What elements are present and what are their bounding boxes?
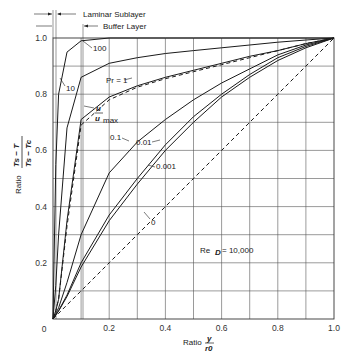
svg-text:u: u — [96, 104, 101, 113]
label-pr01: 0.1 — [110, 133, 122, 142]
svg-text:y: y — [206, 334, 212, 343]
label-pr1: Pr = 1 — [106, 76, 128, 85]
svg-text:Ratio: Ratio — [14, 175, 23, 194]
y-tick-label: 0.6 — [35, 145, 47, 155]
y-axis-label: Ratio Ts − T Ts − Tc — [12, 136, 33, 194]
buffer-layer-annotation: Buffer Layer — [36, 22, 147, 31]
curve-labels: 100 10 Pr = 1 u u max 0.1 0.01 0.001 0 — [60, 41, 177, 227]
svg-text:D: D — [215, 248, 221, 257]
reynolds-number-label: Re D = 10,000 — [200, 246, 254, 257]
svg-text:r0: r0 — [205, 344, 213, 353]
x-tick-label: 0.8 — [272, 323, 284, 333]
label-pr0001: 0.001 — [156, 162, 177, 171]
laminar-sublayer-annotation: Laminar Sublayer — [34, 10, 146, 19]
y-tick-label: 0.8 — [35, 89, 47, 99]
label-u-umax: u u max — [84, 104, 118, 125]
label-pr001: 0.01 — [136, 138, 152, 147]
x-axis-label: Ratio y r0 — [183, 334, 214, 353]
x-axis-ticks: 00.20.40.60.81.0 — [42, 323, 341, 334]
svg-text:Ratio: Ratio — [183, 338, 202, 347]
x-tick-label: 0.6 — [216, 323, 228, 333]
buffer-layer-label: Buffer Layer — [103, 22, 147, 31]
temperature-profile-chart: Laminar Sublayer Buffer Layer 100 10 Pr … — [0, 0, 349, 356]
svg-text:max: max — [103, 116, 118, 125]
svg-text:Ts − Tc: Ts − Tc — [24, 139, 33, 167]
y-tick-label: 0.4 — [35, 202, 47, 212]
y-axis-ticks: 0.20.40.60.81.0 — [35, 33, 47, 268]
svg-text:Re: Re — [200, 246, 211, 255]
label-pr10: 10 — [66, 84, 75, 93]
svg-text:= 10,000: = 10,000 — [222, 246, 254, 255]
svg-text:u: u — [95, 114, 100, 123]
x-tick-label: 0 — [42, 324, 47, 334]
x-tick-label: 0.4 — [159, 323, 171, 333]
svg-text:Ts − T: Ts − T — [12, 143, 21, 167]
x-tick-label: 1.0 — [328, 323, 340, 333]
y-tick-label: 0.2 — [35, 258, 47, 268]
label-pr0: 0 — [151, 218, 156, 227]
y-tick-label: 1.0 — [35, 33, 47, 43]
x-tick-label: 0.2 — [103, 323, 115, 333]
laminar-sublayer-label: Laminar Sublayer — [83, 10, 146, 19]
label-pr100: 100 — [93, 44, 107, 53]
